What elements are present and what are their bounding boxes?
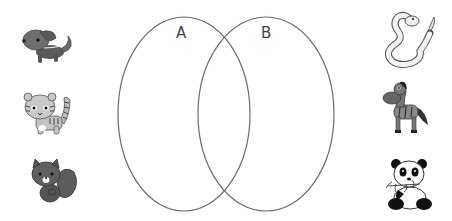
tiger-icon[interactable]: [20, 90, 72, 136]
set-a-ellipse: [118, 17, 250, 211]
zebra-icon[interactable]: [382, 81, 432, 135]
panda-icon[interactable]: [384, 158, 434, 212]
set-b-label: B: [261, 26, 271, 41]
set-a-label: A: [176, 26, 186, 41]
venn-diagram-exercise: A B: [0, 0, 452, 221]
set-b-ellipse: [198, 17, 334, 211]
snake-icon[interactable]: [382, 11, 436, 71]
dog-icon[interactable]: [18, 24, 76, 66]
squirrel-icon[interactable]: [26, 158, 78, 204]
